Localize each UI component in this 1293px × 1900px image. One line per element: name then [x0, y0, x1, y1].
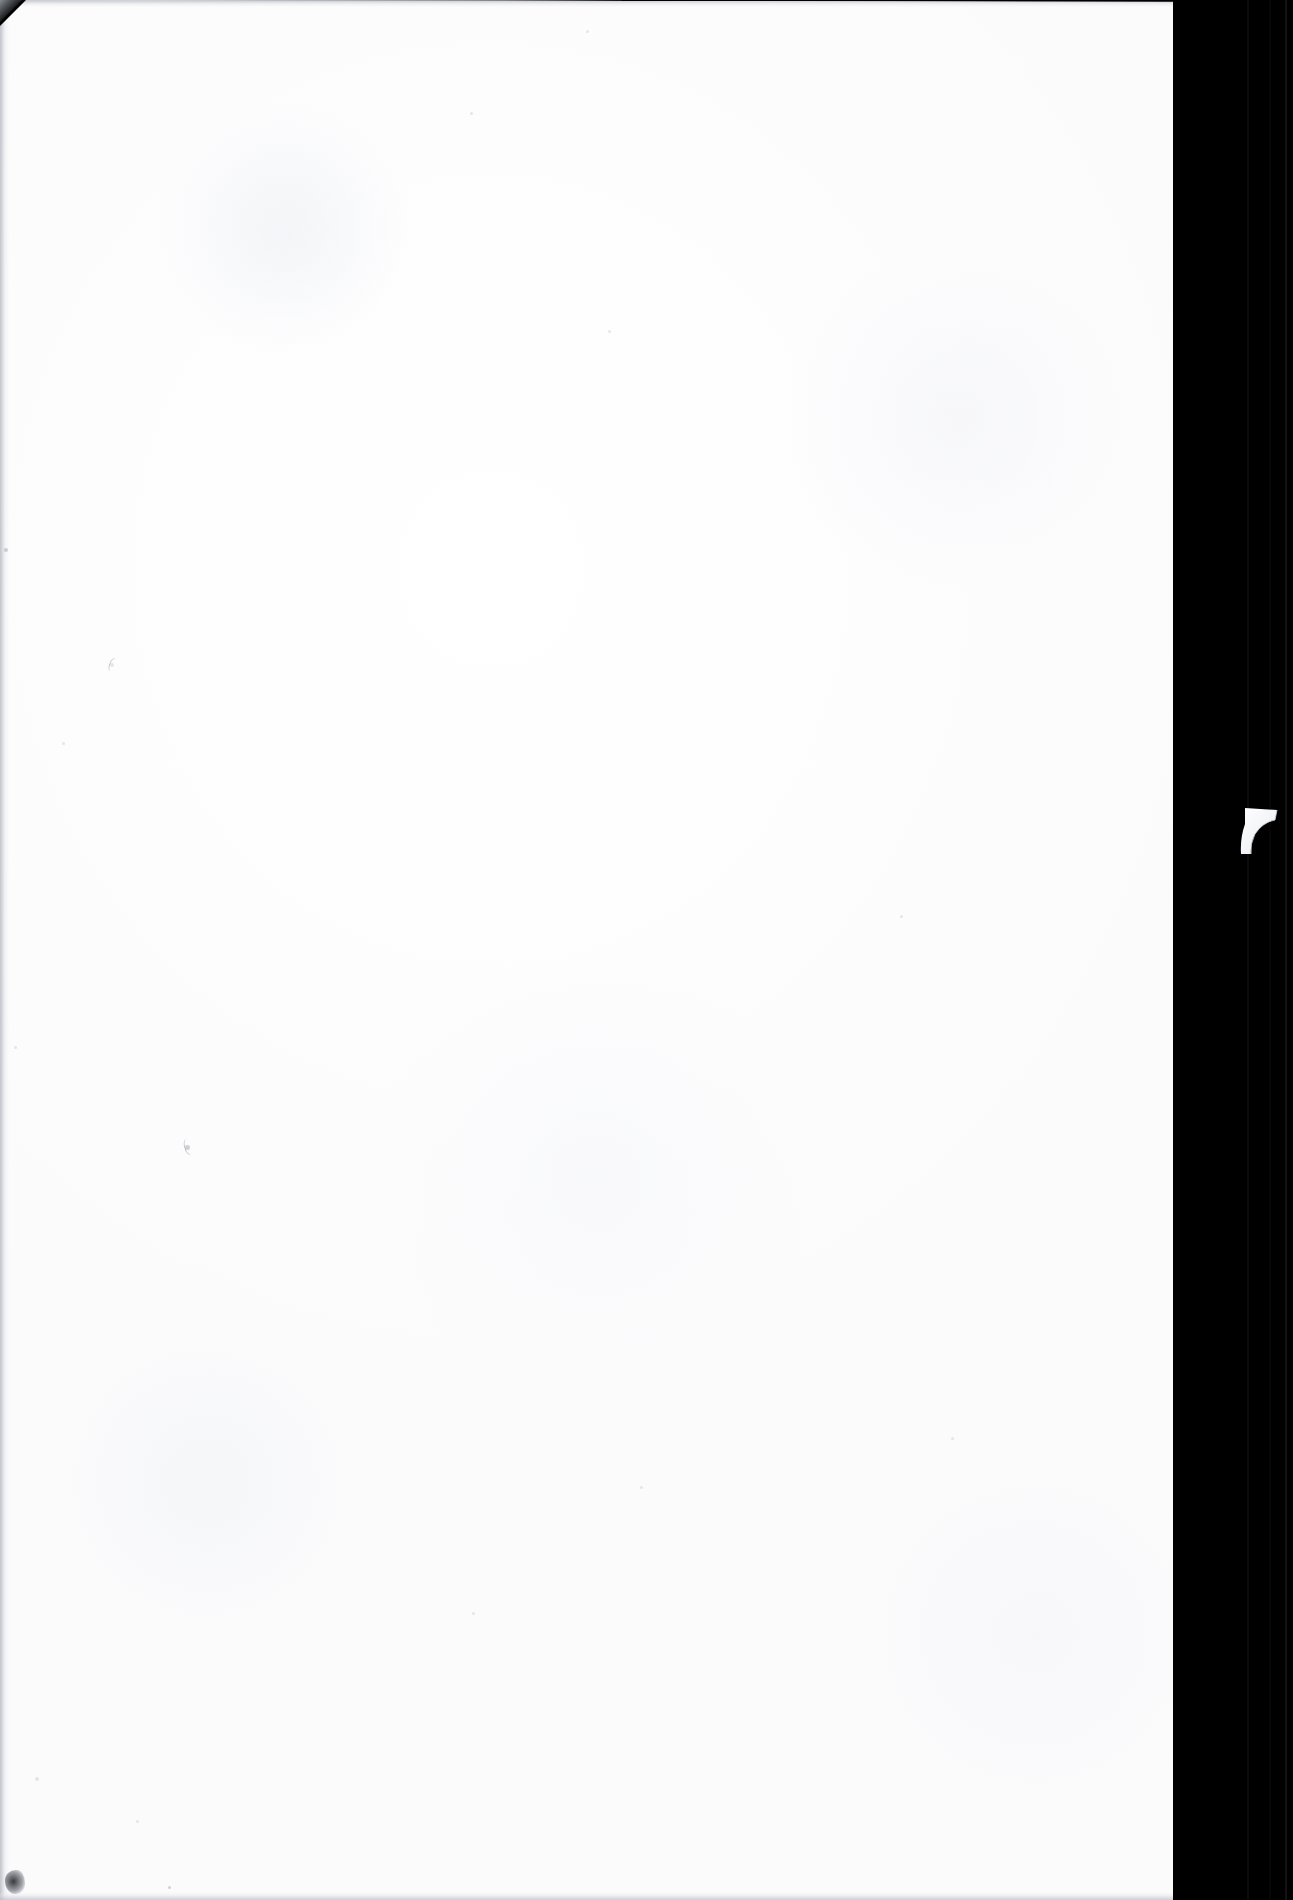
gutter-seam-middle: [1269, 0, 1271, 1900]
paper-surface: [0, 0, 1293, 1900]
scanner-gutter: [1173, 0, 1293, 1900]
paper-left-edge: [0, 0, 9, 1900]
paper-top-edge: [0, 0, 1293, 7]
paper-bottom-edge: [0, 1892, 1293, 1900]
scanned-page: [0, 0, 1293, 1900]
gutter-seam-outer: [1285, 0, 1287, 1900]
paper-sheet: [0, 0, 1293, 1900]
gutter-seam-inner: [1247, 0, 1249, 1900]
bottom-left-smudge: [5, 1870, 25, 1894]
curled-paper-flap: [1239, 804, 1281, 860]
